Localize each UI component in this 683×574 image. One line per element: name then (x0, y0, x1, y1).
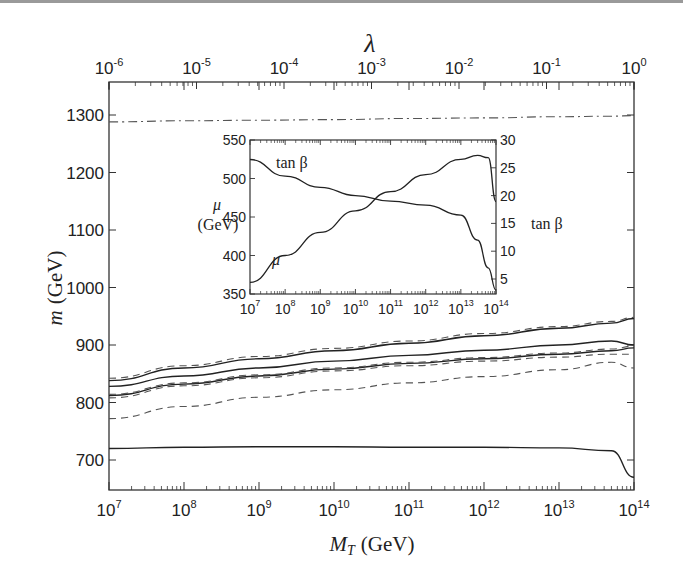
inset-y2-tick-label: 15 (500, 215, 516, 231)
inset-x-tick-label: 1010 (343, 298, 369, 317)
x-tick-label: 108 (171, 498, 196, 520)
inset-left-title-unit: (GeV) (198, 216, 239, 234)
inset-y2-tick-label: 25 (500, 160, 516, 176)
x-axis-title-sub: T (347, 543, 356, 558)
inset-x-tick-label: 1012 (413, 298, 439, 317)
top-x-tick-label: 10-6 (95, 56, 124, 78)
inset-y-tick-label: 500 (223, 171, 247, 187)
y-tick-label: 1300 (66, 106, 104, 125)
y-tick-label: 1100 (67, 221, 104, 240)
inset-y2-tick-label: 30 (500, 132, 516, 148)
top-x-tick-label: 10-3 (357, 56, 386, 78)
y-tick-label: 1200 (66, 164, 104, 183)
x-axis-title: MT(GeV) (329, 532, 415, 558)
inset-curve-label-mu: μ (271, 251, 280, 269)
inset-y-tick-label: 400 (223, 248, 247, 264)
y-axis-title-unit: (GeV) (43, 251, 67, 305)
series-line (109, 362, 634, 418)
y-axis-title-var: m (43, 310, 67, 325)
x-tick-label: 1013 (543, 498, 574, 520)
series-line (109, 341, 634, 386)
x-axis-title-var: M (329, 532, 349, 556)
top-axis-title: λ (363, 29, 375, 58)
x-tick-label: 109 (246, 498, 271, 520)
inset-y-tick-label: 350 (223, 286, 247, 302)
x-tick-label: 1012 (468, 498, 499, 520)
y-tick-label: 1000 (66, 279, 104, 298)
top-x-tick-label: 100 (621, 56, 646, 78)
x-tick-label: 107 (96, 498, 121, 520)
chart-canvas: 1071081091010101110121013101410-610-510-… (0, 0, 683, 574)
inset-y-tick-label: 550 (223, 132, 247, 148)
y-tick-label: 800 (76, 394, 104, 413)
inset-x-tick-label: 108 (275, 298, 296, 317)
inset-x-tick-label: 1014 (483, 298, 509, 317)
top-x-tick-label: 10-5 (182, 56, 211, 78)
inset-y2-tick-label: 10 (500, 243, 516, 259)
x-tick-label: 1011 (394, 498, 424, 520)
inset-y2-tick-label: 5 (500, 271, 508, 287)
x-axis-title-unit: (GeV) (361, 532, 415, 556)
inset-curve-label-tanb: tan β (276, 154, 308, 172)
x-tick-label: 1014 (618, 498, 649, 520)
series-line (109, 319, 634, 381)
series-line (109, 317, 634, 378)
inset-x-tick-label: 1011 (378, 298, 403, 317)
inset-y2-tick-label: 20 (500, 188, 516, 204)
inset-left-title-var: μ (212, 196, 221, 214)
series-line (109, 447, 634, 478)
y-axis-title: m(GeV) (43, 251, 67, 326)
inset-chart: 1071081091010101110121013101435040045050… (223, 132, 516, 317)
top-x-tick-label: 10-4 (270, 56, 299, 78)
inset-x-tick-label: 109 (310, 298, 331, 317)
inset-x-tick-label: 1013 (448, 298, 474, 317)
top-x-tick-label: 10-2 (445, 56, 474, 78)
top-x-tick-label: 10-1 (532, 56, 561, 78)
x-tick-label: 1010 (318, 498, 349, 520)
y-tick-label: 700 (76, 451, 104, 470)
inset-right-title: tan β (531, 215, 563, 233)
series-line (109, 348, 634, 396)
series-line (109, 116, 634, 122)
y-tick-label: 900 (76, 336, 104, 355)
